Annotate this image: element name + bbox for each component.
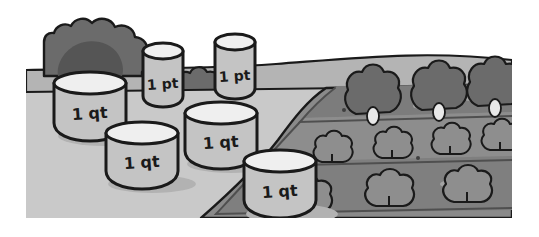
container-pint-2[interactable]: 1 pt <box>215 34 255 99</box>
garden-plant-front-3 <box>443 165 492 202</box>
garden-illustration: 1 qt 1 pt 1 pt 1 qt <box>26 6 512 218</box>
scene-svg: 1 qt 1 pt 1 pt 1 qt <box>26 6 512 218</box>
container-quart-4[interactable]: 1 qt <box>244 150 316 218</box>
illustration-scene: 1 qt 1 pt 1 pt 1 qt <box>0 0 539 237</box>
garden-plant-front-2 <box>365 169 414 206</box>
container-quart-1-label: 1 qt <box>71 103 108 124</box>
garden-plant-middle-2 <box>374 127 413 158</box>
container-quart-4-label: 1 qt <box>261 181 298 202</box>
container-pint-1[interactable]: 1 pt <box>143 43 183 107</box>
container-quart-3[interactable]: 1 qt <box>106 122 178 189</box>
container-pint-2-label: 1 pt <box>218 67 251 85</box>
garden-plant-middle-1 <box>314 131 353 162</box>
container-pint-1-label: 1 pt <box>146 75 179 93</box>
garden-plant-middle-3 <box>432 123 471 154</box>
container-quart-2-label: 1 qt <box>202 132 239 153</box>
container-quart-3-label: 1 qt <box>123 152 160 173</box>
